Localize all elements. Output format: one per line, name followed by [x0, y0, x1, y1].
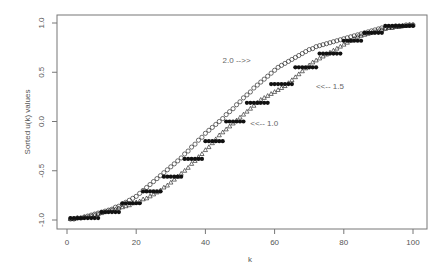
- data-point: [380, 31, 384, 35]
- data-point: [183, 152, 187, 156]
- data-point: [169, 165, 173, 169]
- data-point: [228, 110, 232, 114]
- data-point: [221, 116, 225, 120]
- data-point: [221, 139, 225, 143]
- x-tick-label: 60: [270, 238, 279, 247]
- y-axis: -1.0-0.50.00.51.0: [37, 17, 57, 227]
- data-point: [262, 77, 266, 81]
- data-point: [186, 165, 190, 169]
- annotation-label: <<-- 1.5: [316, 82, 345, 91]
- data-point: [196, 138, 200, 142]
- data-point: [148, 182, 152, 186]
- data-point: [290, 82, 294, 86]
- data-point: [176, 159, 180, 163]
- annotations: 2.0 -->><<-- 1.5<<-- 1.0: [223, 56, 345, 128]
- y-tick-label: -0.5: [37, 163, 46, 177]
- data-point: [193, 142, 197, 146]
- data-point: [200, 157, 204, 161]
- data-point: [273, 68, 277, 72]
- annotation-label: 2.0 -->>: [223, 56, 251, 65]
- data-point: [165, 168, 169, 172]
- data-point: [266, 74, 270, 78]
- y-axis-label: Sorted u(k) values: [23, 90, 32, 155]
- data-point: [189, 145, 193, 149]
- data-point: [314, 65, 318, 69]
- data-point: [172, 162, 176, 166]
- data-point: [266, 101, 270, 105]
- y-tick-label: 0.5: [37, 66, 46, 78]
- series-1-0-filled-circles: [68, 24, 415, 220]
- data-point: [200, 152, 204, 156]
- x-tick-label: 100: [406, 238, 420, 247]
- data-point: [158, 189, 162, 193]
- x-tick-label: 80: [339, 238, 348, 247]
- y-tick-label: 1.0: [37, 17, 46, 29]
- y-tick-label: -1.0: [37, 213, 46, 227]
- x-axis-label: k: [248, 255, 253, 264]
- x-tick-label: 0: [65, 238, 70, 247]
- data-point: [138, 201, 142, 205]
- data-point: [217, 119, 221, 123]
- data-point: [248, 90, 252, 94]
- data-point: [200, 135, 204, 139]
- data-point: [214, 122, 218, 126]
- x-tick-label: 40: [201, 238, 210, 247]
- data-point: [207, 145, 211, 149]
- data-point: [162, 171, 166, 175]
- data-point: [269, 71, 273, 75]
- data-point: [186, 149, 190, 153]
- data-point: [231, 107, 235, 111]
- scatter-chart: 020406080100 -1.0-0.50.00.51.0 k Sorted …: [0, 0, 448, 277]
- data-point: [241, 96, 245, 100]
- data-point: [338, 51, 342, 55]
- data-point: [238, 100, 242, 104]
- y-tick-label: 0.0: [37, 115, 46, 127]
- data-point: [234, 103, 238, 107]
- data-point: [96, 216, 100, 220]
- x-axis: 020406080100: [65, 229, 420, 247]
- data-point: [359, 39, 363, 43]
- data-point: [203, 131, 207, 135]
- data-point: [144, 185, 148, 189]
- data-point: [255, 83, 259, 87]
- data-point: [179, 175, 183, 179]
- data-point: [259, 80, 263, 84]
- data-point: [245, 93, 249, 97]
- data-point: [241, 119, 245, 123]
- data-point: [151, 179, 155, 183]
- x-tick-label: 20: [132, 238, 141, 247]
- data-point: [207, 128, 211, 132]
- annotation-label: <<-- 1.0: [250, 119, 279, 128]
- data-point: [117, 210, 121, 214]
- data-point: [411, 24, 415, 28]
- data-point: [210, 125, 214, 129]
- data-point: [224, 113, 228, 117]
- data-point: [155, 177, 159, 181]
- data-point: [141, 197, 145, 201]
- data-point: [252, 86, 256, 90]
- data-point: [134, 194, 138, 198]
